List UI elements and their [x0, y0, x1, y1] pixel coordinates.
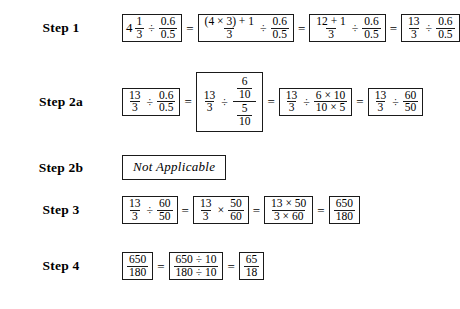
divide-operator: ÷	[389, 96, 402, 108]
numerator: 13	[198, 198, 214, 210]
numerator: 12 + 1	[314, 16, 348, 28]
numerator: 650	[334, 198, 355, 210]
denominator: 180	[127, 266, 148, 279]
expression-box-s1e1: 4 1 3 ÷ 0.6 0.5	[122, 14, 182, 42]
numerator: 5	[240, 103, 250, 115]
numerator: 6 × 10	[314, 90, 348, 102]
denominator: 180 ÷ 10	[174, 266, 219, 279]
numerator: 13 × 50	[269, 198, 308, 210]
right-fraction: 50 60	[227, 198, 245, 222]
denominator: 3	[201, 210, 211, 223]
denominator: 3	[205, 101, 215, 114]
numerator: 6	[240, 76, 250, 88]
step-2a-expressions: 13 3 ÷ 0.6 0.5 = 13 3 ÷	[122, 72, 454, 132]
step-2b-expressions: Not Applicable	[122, 155, 454, 180]
times-operator: ×	[214, 204, 227, 216]
denominator: 180	[334, 210, 355, 223]
denominator: 18	[244, 266, 260, 279]
numerator: 13	[406, 16, 422, 28]
divide-operator: ÷	[144, 96, 157, 108]
step-row-4: Step 4 650 180 = 650 ÷ 10 180 ÷ 10 = 65	[0, 252, 454, 280]
numerator: 0.6	[436, 16, 454, 28]
equals-sign: =	[182, 22, 197, 35]
right-fraction: 0.6 0.5	[361, 16, 381, 40]
denominator: 10	[237, 115, 253, 128]
denominator: 3	[224, 28, 234, 41]
denominator: 3	[130, 210, 140, 223]
expression-box-s2ae4: 13 3 ÷ 60 50	[368, 88, 424, 116]
expression-box-s4e3: 65 18	[239, 252, 265, 280]
denominator: 0.5	[157, 101, 175, 114]
numerator: 13	[373, 90, 389, 102]
equals-sign: =	[294, 22, 309, 35]
expression-box-s3e1: 13 3 ÷ 60 50	[122, 196, 178, 224]
left-fraction: 13 3	[372, 90, 390, 114]
left-fraction: 13 3	[197, 198, 215, 222]
fraction: 5 10	[236, 103, 254, 127]
step-row-3: Step 3 13 3 ÷ 60 50 = 13 3 ×	[0, 196, 454, 224]
divide-operator: ÷	[300, 96, 313, 108]
numerator: 0.6	[157, 90, 175, 102]
numerator: 1	[135, 16, 145, 28]
step-label-1: Step 1	[0, 20, 122, 36]
step-row-1: Step 1 4 1 3 ÷ 0.6 0.5 = (4 × 3) + 1 3	[0, 14, 454, 42]
numerator: 0.6	[159, 16, 177, 28]
right-fraction: 60 50	[156, 198, 174, 222]
numerator: 0.6	[362, 16, 380, 28]
numerator: 13	[127, 90, 143, 102]
right-fraction: 0.6 0.5	[270, 16, 290, 40]
expression-box-s2ae2: 13 3 ÷ 6 10 5 10	[196, 72, 264, 132]
expression-box-s3e3: 13 × 50 3 × 60	[264, 196, 313, 224]
denominator: 0.5	[271, 28, 289, 41]
equals-sign: =	[313, 204, 328, 217]
step-3-expressions: 13 3 ÷ 60 50 = 13 3 × 50 60	[122, 196, 454, 224]
expression-box-s2ae3: 13 3 ÷ 6 × 10 10 × 5	[279, 88, 353, 116]
numerator: 13	[127, 198, 143, 210]
denominator: 3	[130, 101, 140, 114]
step-label-2a: Step 2a	[0, 94, 122, 110]
complex-fraction: 6 10 5 10	[231, 76, 259, 128]
denominator: 10 × 5	[314, 101, 348, 114]
denominator: 3	[409, 28, 419, 41]
numerator: 60	[157, 198, 173, 210]
denominator: 3 × 60	[272, 210, 306, 223]
denominator: 3	[287, 101, 297, 114]
left-fraction: 13 3	[126, 198, 144, 222]
complex-numerator: 6 10	[233, 76, 257, 101]
expression-box-s1e4: 13 3 ÷ 0.6 0.5	[401, 14, 459, 42]
numerator: 13	[202, 90, 218, 102]
right-fraction: 60 50	[402, 90, 420, 114]
single-fraction: 650 180	[333, 198, 356, 222]
left-fraction: (4 × 3) + 1 3	[202, 16, 257, 40]
numerator: 650 ÷ 10	[174, 254, 219, 266]
expression-box-s2ae1: 13 3 ÷ 0.6 0.5	[122, 88, 180, 116]
right-fraction: 0.6 0.5	[156, 90, 176, 114]
step-label-4: Step 4	[0, 258, 122, 274]
denominator: 3	[326, 28, 336, 41]
divide-operator: ÷	[218, 96, 231, 108]
equals-sign: =	[249, 204, 264, 217]
numerator: 50	[228, 198, 244, 210]
left-fraction: 12 + 1 3	[313, 16, 349, 40]
equals-sign: =	[352, 95, 367, 108]
not-applicable-text: Not Applicable	[126, 157, 222, 178]
denominator: 0.5	[362, 28, 380, 41]
denominator: 50	[403, 101, 419, 114]
divide-operator: ÷	[423, 22, 436, 34]
single-fraction: 13 × 50 3 × 60	[268, 198, 309, 222]
expression-box-s3e2: 13 3 × 50 60	[193, 196, 249, 224]
equals-sign: =	[153, 260, 168, 273]
equals-sign: =	[263, 95, 278, 108]
expression-box-s1e3: 12 + 1 3 ÷ 0.6 0.5	[309, 14, 385, 42]
divide-operator: ÷	[144, 204, 157, 216]
right-fraction: 6 × 10 10 × 5	[313, 90, 349, 114]
denominator: 0.5	[159, 28, 177, 41]
equals-sign: =	[223, 260, 238, 273]
denominator: 3	[135, 28, 145, 41]
denominator: 50	[157, 210, 173, 223]
divide-operator: ÷	[257, 22, 270, 34]
equals-sign: =	[178, 204, 193, 217]
mixed-fraction-part: 1 3	[134, 16, 146, 40]
denominator: 0.5	[436, 28, 454, 41]
